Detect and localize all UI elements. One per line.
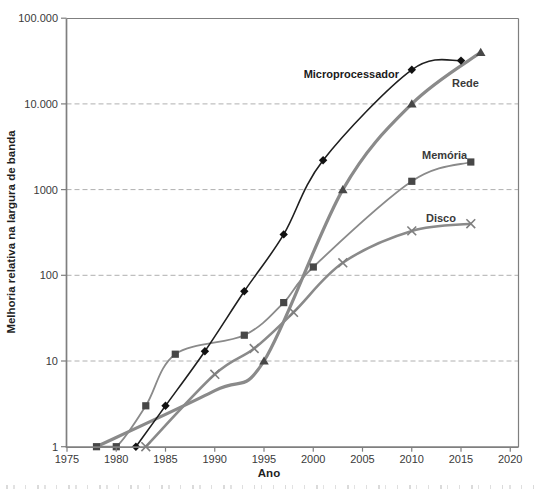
x-axis-title: Ano [258, 467, 280, 479]
series-label-disco: Disco [426, 212, 456, 224]
series-line-microprocessador [136, 60, 461, 447]
marker-memória-1986 [172, 351, 179, 358]
marker-disco-2003 [338, 258, 347, 267]
x-tick-label-1975: 1975 [55, 453, 79, 465]
series-label-rede: Rede [452, 77, 479, 89]
series-label-memoria: Memória [422, 149, 468, 161]
marker-rede-2017 [476, 48, 486, 56]
marker-memória-1993 [241, 332, 248, 339]
x-tick-label-1990: 1990 [203, 453, 227, 465]
marker-memória-1997 [280, 299, 287, 306]
x-tick-label-2015: 2015 [449, 453, 473, 465]
x-tick-label-2020: 2020 [498, 453, 522, 465]
x-tick-label-2005: 2005 [350, 453, 374, 465]
y-tick-label-1: 1 [52, 441, 58, 453]
marker-disco-1990 [210, 370, 219, 379]
marker-memória-1983 [142, 402, 149, 409]
ticks-layer: 110100100010.000100.00019751980198519901… [18, 12, 522, 465]
marker-memória-2000 [310, 263, 317, 270]
x-tick-label-1985: 1985 [153, 453, 177, 465]
series-layer [93, 48, 486, 451]
x-tick-label-2000: 2000 [301, 453, 325, 465]
gridlines-layer [67, 104, 519, 361]
bandwidth-improvement-chart: 110100100010.000100.00019751980198519901… [0, 0, 540, 485]
marker-memória-2016 [467, 158, 474, 165]
series-line-disco [146, 224, 471, 447]
y-tick-label-100.000: 100.000 [18, 12, 58, 24]
x-tick-label-1995: 1995 [252, 453, 276, 465]
y-tick-label-1000: 1000 [34, 184, 58, 196]
x-tick-label-2010: 2010 [400, 453, 424, 465]
y-tick-label-100: 100 [40, 269, 58, 281]
figure-bandwidth-milestones: 110100100010.000100.00019751980198519901… [0, 0, 540, 491]
series-label-microprocessador: Microprocessador [304, 68, 400, 80]
axes-frame-layer [66, 19, 519, 448]
marker-disco-1998 [289, 308, 298, 317]
y-axis-title: Melhoria relativa na largura de banda [5, 130, 17, 334]
x-tick-label-1980: 1980 [104, 453, 128, 465]
marker-disco-1994 [250, 344, 259, 353]
y-tick-label-10: 10 [46, 355, 58, 367]
y-tick-label-10.000: 10.000 [24, 98, 58, 110]
marker-memória-2010 [408, 178, 415, 185]
marker-microprocessador-1997 [280, 230, 288, 238]
cropped-caption-text [6, 485, 534, 489]
